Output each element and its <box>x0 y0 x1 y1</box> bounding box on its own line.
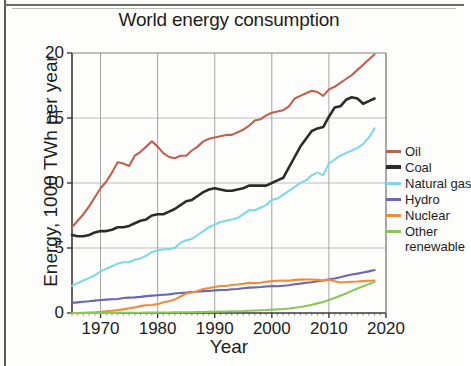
legend-label: Natural gas <box>405 176 471 191</box>
legend-color-swatch <box>386 165 401 169</box>
x-axis-label: Year <box>72 336 386 358</box>
legend-label: Other <box>405 224 438 239</box>
legend-item[interactable]: Nuclear <box>386 207 468 223</box>
legend-label-continuation: renewable <box>386 239 468 254</box>
legend-item[interactable]: Hydro <box>386 191 468 207</box>
legend-color-swatch <box>386 198 401 201</box>
legend-item[interactable]: Oil <box>386 143 468 159</box>
legend-color-swatch <box>386 182 401 185</box>
gridlines <box>72 53 386 313</box>
legend-item[interactable]: Natural gas <box>386 175 468 191</box>
legend-label: Hydro <box>405 192 440 207</box>
y-axis-label: Energy, 1000 TWh per year <box>40 26 62 316</box>
legend-label: Coal <box>405 160 432 175</box>
legend-item[interactable]: Coal <box>386 159 468 175</box>
legend-label: Oil <box>405 144 421 159</box>
chart-legend: OilCoalNatural gasHydroNuclearOther rene… <box>386 143 468 254</box>
legend-color-swatch <box>386 214 401 217</box>
legend-color-swatch <box>386 230 401 233</box>
legend-label: Nuclear <box>405 208 450 223</box>
legend-item[interactable]: Other <box>386 223 468 239</box>
legend-color-swatch <box>386 150 401 153</box>
